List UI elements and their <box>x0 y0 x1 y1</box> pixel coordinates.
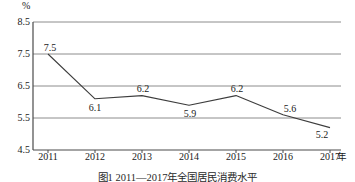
x-tick-label: 2011 <box>28 152 68 162</box>
x-tick-label: 2016 <box>263 152 303 162</box>
data-label: 5.6 <box>273 104 307 114</box>
x-tick-label: 2012 <box>75 152 115 162</box>
data-label: 6.2 <box>220 84 254 94</box>
data-label: 5.9 <box>173 109 207 119</box>
y-tick-label: 7.5 <box>4 49 30 59</box>
figure-caption: 图1 2011—2017年全国居民消费水平 <box>0 172 355 182</box>
x-tick-label: 2014 <box>169 152 209 162</box>
y-tick-label: 4.5 <box>4 145 30 155</box>
x-tick-label: 2017 <box>310 152 350 162</box>
y-axis-tick-labels: 8.5 7.5 6.5 5.5 4.5 <box>0 0 30 182</box>
y-tick-label: 8.5 <box>4 17 30 27</box>
data-label: 6.2 <box>126 84 160 94</box>
data-label: 6.1 <box>78 103 112 113</box>
x-tick-label: 2013 <box>122 152 162 162</box>
y-tick-label: 5.5 <box>4 113 30 123</box>
data-label: 7.5 <box>33 43 67 53</box>
line-chart: % 年 8.5 7.5 6.5 5.5 4.5 2011 2012 2013 2… <box>0 0 355 182</box>
y-tick-label: 6.5 <box>4 81 30 91</box>
x-tick-label: 2015 <box>216 152 256 162</box>
data-label: 5.2 <box>305 130 339 140</box>
